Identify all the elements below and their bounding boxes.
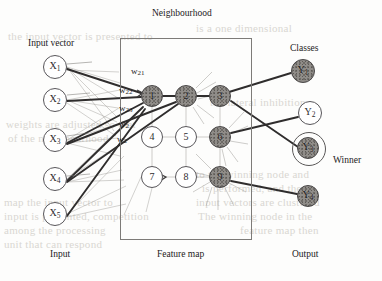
input-node-label-x4: X4 — [50, 173, 61, 184]
weight-label-w22: w22 — [119, 85, 133, 96]
feature-map-node-n1[interactable]: 1 — [141, 85, 163, 107]
feature-map-node-n2[interactable]: 2 — [175, 85, 197, 107]
output-node-y4[interactable]: Y4 — [297, 185, 319, 207]
bottom-label-output: Output — [292, 249, 318, 259]
feature-map-node-n8[interactable]: 8 — [175, 166, 197, 188]
feature-map-node-n7[interactable]: 7 — [141, 166, 163, 188]
feature-map-node-label-n6: 6 — [218, 132, 223, 142]
weight-label-w23: w23 — [119, 103, 133, 114]
classes-label: Classes — [290, 43, 319, 53]
feature-map-node-label-n5: 5 — [184, 132, 189, 142]
figure-canvas: the input vector is presented toweights … — [0, 0, 382, 281]
weight-label-w21: w21 — [131, 66, 145, 77]
feature-map-node-label-n2: 2 — [184, 91, 189, 101]
feature-map-node-label-n8: 8 — [184, 172, 189, 182]
feature-map-node-label-n7: 7 — [150, 172, 155, 182]
winner-label: Winner — [333, 155, 361, 165]
input-node-label-x3: X3 — [50, 134, 61, 145]
input-node-x3[interactable]: X3 — [43, 128, 67, 152]
output-node-y3[interactable]: Y3 — [297, 137, 319, 159]
input-node-x5[interactable]: X5 — [43, 202, 67, 226]
input-node-label-x1: X1 — [50, 61, 61, 72]
feature-map-node-n3[interactable]: 3 — [209, 85, 231, 107]
neighbourhood-label: Neighbourhood — [152, 8, 212, 18]
bottom-label-feature-map: Feature map — [157, 249, 204, 259]
bottom-label-input: Input — [50, 249, 70, 259]
feature-map-node-label-n4: 4 — [150, 132, 155, 142]
output-node-label-y4: Y4 — [303, 190, 314, 201]
output-node-y2[interactable]: Y2 — [298, 101, 322, 125]
feature-map-node-n6[interactable]: 6 — [209, 126, 231, 148]
input-node-x1[interactable]: X1 — [43, 55, 67, 79]
output-node-y1[interactable]: Y1 — [291, 59, 315, 83]
weight-label-w2n: w2 — [119, 119, 129, 130]
feature-map-node-n9[interactable]: 9 — [209, 166, 231, 188]
feature-map-node-n4[interactable]: 4 — [141, 126, 163, 148]
feature-map-node-label-n3: 3 — [218, 91, 223, 101]
feature-map-node-label-n1: 1 — [150, 91, 155, 101]
feature-map-node-label-n9: 9 — [218, 172, 223, 182]
input-node-label-x2: X2 — [50, 94, 61, 105]
input-stub-lines — [67, 62, 92, 176]
input-node-label-x5: X5 — [50, 208, 61, 219]
input-node-x4[interactable]: X4 — [43, 167, 67, 191]
input-vector-label: Input vector — [28, 38, 74, 48]
output-node-label-y1: Y1 — [298, 65, 309, 76]
output-node-label-y2: Y2 — [305, 107, 316, 118]
input-node-x2[interactable]: X2 — [43, 88, 67, 112]
weight-label-w2m: w2 — [117, 134, 127, 145]
feature-map-node-n5[interactable]: 5 — [175, 126, 197, 148]
output-node-label-y3: Y3 — [303, 142, 314, 153]
